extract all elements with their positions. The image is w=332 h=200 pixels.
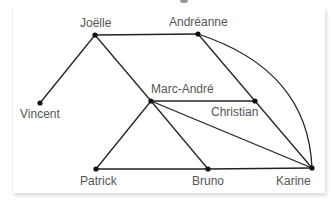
- label-marcandre: Marc-André: [151, 83, 214, 95]
- label-andreanne: Andréanne: [169, 16, 228, 28]
- node-karine: [309, 165, 314, 170]
- node-vincent: [37, 100, 42, 105]
- node-patrick: [93, 166, 98, 171]
- edge-joelle-vincent: [40, 35, 95, 103]
- node-bruno: [205, 166, 210, 171]
- node-andreanne: [195, 31, 200, 36]
- edge-joelle-marcandre: [95, 35, 151, 101]
- edge-joelle-andreanne: [95, 34, 198, 35]
- edge-marcandre-patrick: [96, 101, 151, 169]
- node-joelle: [92, 32, 97, 37]
- node-marcandre: [148, 98, 153, 103]
- edge-christian-karine: [255, 101, 312, 168]
- label-joelle: Joëlle: [80, 17, 111, 29]
- label-bruno: Bruno: [192, 175, 224, 187]
- label-karine: Karine: [276, 175, 311, 187]
- edge-marcandre-bruno: [151, 101, 208, 169]
- edges: [40, 34, 312, 169]
- label-vincent: Vincent: [20, 108, 60, 120]
- label-christian: Christian: [211, 106, 258, 118]
- edge-bruno-karine: [208, 168, 312, 169]
- node-christian: [252, 98, 257, 103]
- label-patrick: Patrick: [80, 175, 117, 187]
- graph-canvas: [0, 0, 332, 200]
